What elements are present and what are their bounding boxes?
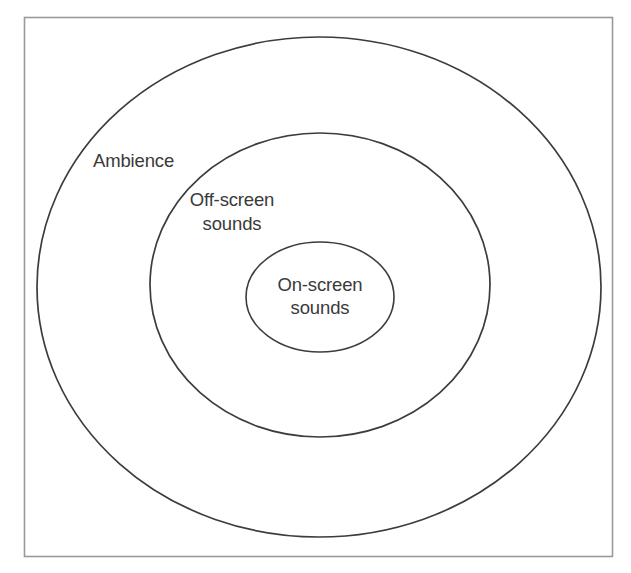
concentric-sound-layers-diagram: Ambience Off-screen sounds On-screen sou… xyxy=(0,0,631,573)
off-screen-sounds-label-line2: sounds xyxy=(203,213,262,234)
on-screen-sounds-label-line1: On-screen xyxy=(277,274,362,295)
diagram-root: Ambience Off-screen sounds On-screen sou… xyxy=(0,0,631,573)
on-screen-sounds-label-line2: sounds xyxy=(291,297,350,318)
ambience-label: Ambience xyxy=(93,150,174,171)
off-screen-sounds-label-line1: Off-screen xyxy=(190,189,275,210)
